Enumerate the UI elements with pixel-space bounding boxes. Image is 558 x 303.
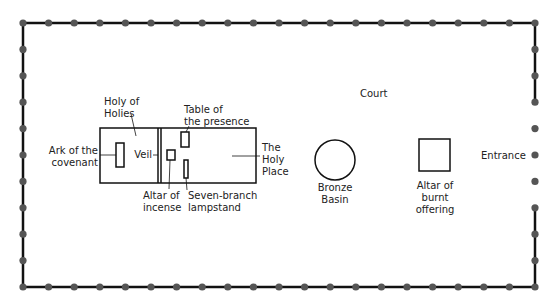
entrance-label: Entrance [481,150,526,161]
altar-burnt-label-line1: Altar of [417,180,454,191]
lampstand-icon [184,160,188,178]
fence-post-icon [96,19,103,26]
ark-icon [116,143,124,167]
veil-label: Veil [134,149,152,160]
fence-post-icon [250,283,257,290]
fence-post-icon [378,19,385,26]
fence-post-icon [531,231,538,238]
bronze-basin-label-line2: Basin [321,194,348,205]
fence-post-icon [45,283,52,290]
altar-incense-label-line2: incense [143,202,181,213]
fence-post-icon [531,178,538,185]
fence-post-icon [250,19,257,26]
fence-post-icon [71,19,78,26]
fence-post-icon [19,19,26,26]
holy-of-holies-label-line2: Holies [104,108,135,119]
fence-post-icon [224,283,231,290]
altar-burnt-label-line3: offering [416,204,455,215]
fence-post-icon [173,19,180,26]
fence-post-icon [403,19,410,26]
fence-post-icon [19,231,26,238]
fence-post-icon [275,19,282,26]
altar-burnt-label-line2: burnt [422,192,449,203]
bronze-basin-label-line1: Bronze [318,182,353,193]
fence-post-icon [480,283,487,290]
holy-place-label-line2: Holy [262,154,284,165]
court-label: Court [360,88,388,99]
fence-post-icon [173,283,180,290]
fence-post-icon [19,72,26,79]
fence-post-icon [71,283,78,290]
fence-post-icon [429,283,436,290]
holy-of-holies-label-line1: Holy of [104,96,140,107]
fence-post-icon [327,283,334,290]
ark-label-line1: Ark of the [49,145,98,156]
fence-post-icon [147,19,154,26]
table-label-line2: the presence [184,116,249,127]
fence-post-icon [531,151,538,158]
fence-post-icon [19,99,26,106]
lampstand-label-line2: lampstand [188,202,241,213]
fence-post-icon [531,99,538,106]
fence-post-icon [19,151,26,158]
fence-post-icon [19,46,26,53]
lampstand-label-line1: Seven-branch [188,190,257,201]
holy-place-label-line3: Place [262,166,289,177]
fence-post-icon [199,19,206,26]
fence-post-icon [352,283,359,290]
fence-post-icon [199,283,206,290]
lampstand-pointer [186,178,187,190]
altar-burnt-offering-icon [419,139,450,171]
fence-post-icon [403,283,410,290]
fence-post-icon [378,283,385,290]
fence-post-icon [531,283,538,290]
fence-post-icon [275,283,282,290]
tabernacle-diagram: Court Entrance Holy of Holies Ark of the… [0,0,558,303]
fence-post-icon [45,19,52,26]
fence-post-icon [352,19,359,26]
fence-post-icon [122,19,129,26]
fence-post-icon [531,46,538,53]
bronze-basin-icon [315,140,355,180]
fence-post-icon [301,19,308,26]
fence-post-icon [531,19,538,26]
fence-post-icon [19,178,26,185]
altar-of-incense-icon [167,150,175,160]
fence-post-icon [531,72,538,79]
fence-post-icon [96,283,103,290]
fence-post-icon [455,19,462,26]
fence-post-icon [19,283,26,290]
fence-post-icon [455,283,462,290]
fence-post-icon [506,283,513,290]
table-of-presence-icon [181,132,189,147]
fence-post-icon [122,283,129,290]
fence-post-icon [506,19,513,26]
fence-post-icon [429,19,436,26]
fence-post-icon [531,257,538,264]
table-label-line1: Table of [183,104,223,115]
holy-place-label-line1: The [261,142,281,153]
fence-post-icon [19,257,26,264]
fence-post-icon [147,283,154,290]
ark-label-line2: covenant [52,157,98,168]
fence-post-icon [19,125,26,132]
fence-post-icon [531,125,538,132]
fence-post-icon [531,204,538,211]
fence-post-icon [224,19,231,26]
fence-post-icon [19,204,26,211]
fence-post-icon [301,283,308,290]
fence-post-icon [327,19,334,26]
altar-incense-label-line1: Altar of [143,190,180,201]
altar-incense-pointer [169,160,170,189]
fence-post-icon [480,19,487,26]
